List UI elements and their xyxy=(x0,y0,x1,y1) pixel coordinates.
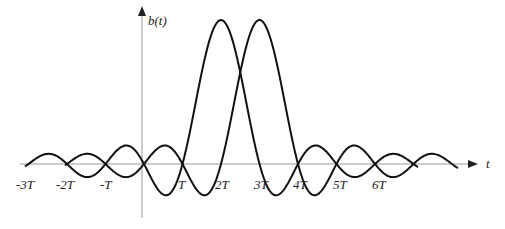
tick-label: 2T xyxy=(215,178,229,191)
b-axis-arrow-icon xyxy=(138,6,146,16)
x-axis-label: t xyxy=(486,157,490,170)
tick-label: 5T xyxy=(333,178,347,191)
y-axis-label: b(t) xyxy=(148,14,167,27)
tick-label: 6T xyxy=(372,178,386,191)
t-axis-arrow-icon xyxy=(468,160,478,168)
tick-label: -T xyxy=(100,178,112,191)
tick-label: -2T xyxy=(56,178,74,191)
tick-label: -3T xyxy=(16,178,34,191)
tick-label: T xyxy=(178,178,185,191)
sinc-pulse-curve-1 xyxy=(25,20,418,195)
tick-label: 3T xyxy=(254,178,268,191)
tick-label: 4T xyxy=(293,178,307,191)
sinc-pulse-diagram xyxy=(0,0,505,229)
